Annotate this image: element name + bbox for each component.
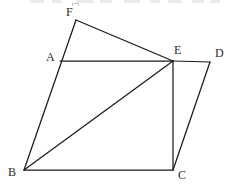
segment-B-E xyxy=(24,61,173,170)
vertex-label-F: F xyxy=(66,6,73,18)
geometry-figure: FAEDBC xyxy=(0,0,232,185)
segment-E-D xyxy=(173,61,210,62)
vertex-label-A: A xyxy=(46,51,55,63)
vertex-label-B: B xyxy=(8,166,16,178)
vertex-label-C: C xyxy=(178,169,186,181)
figure-canvas xyxy=(0,0,232,185)
edge-group xyxy=(24,20,210,170)
segment-D-C xyxy=(173,62,210,170)
segment-F-B xyxy=(24,20,76,170)
segment-F-E xyxy=(76,20,173,61)
vertex-label-E: E xyxy=(174,44,181,56)
vertex-label-D: D xyxy=(215,47,224,59)
